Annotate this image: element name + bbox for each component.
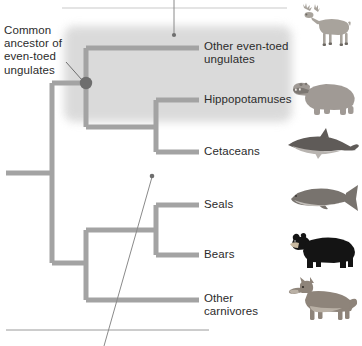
tip-label-seals: Seals [204, 198, 284, 211]
bottom-callout-leader-dot [150, 174, 155, 179]
common-ancestor-annotation-label: Common ancestor of even-toed ungulates [4, 24, 76, 77]
bear-illustration [288, 228, 360, 270]
bottom-callout-leader-line [104, 177, 152, 346]
dolphin-illustration [286, 126, 360, 168]
tip-label-hippopotamuses: Hippopotamuses [204, 93, 304, 106]
tip-label-cetaceans: Cetaceans [204, 145, 294, 158]
tip-label-other-even-toed-ungulates: Other even-toed ungulates [204, 40, 296, 66]
phylogenetic-tree-figure: Common ancestor of even-toed ungulates O… [0, 0, 362, 346]
tip-label-bears: Bears [204, 248, 284, 261]
common-ancestor-node-dot [80, 77, 92, 89]
deer-illustration [292, 2, 358, 48]
top-callout-leader-dot [172, 33, 176, 37]
tip-label-other-carnivores: Other carnivores [204, 292, 288, 318]
wolf-illustration [286, 276, 360, 322]
seal-illustration [288, 180, 360, 218]
